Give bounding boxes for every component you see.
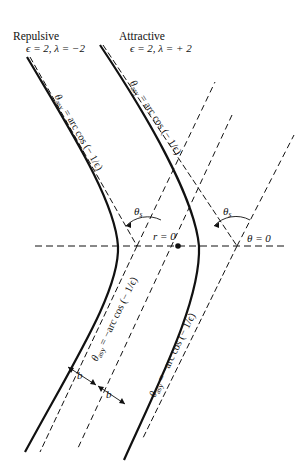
- attractive-title: Attractive: [119, 30, 165, 42]
- theta-s-label-attractive: θs: [223, 205, 231, 221]
- origin-point: [175, 243, 181, 249]
- attractive-params: ϵ = 2, λ = + 2: [130, 42, 192, 54]
- attractive-lower-asymptote: [142, 246, 237, 440]
- attractive-params-text: ϵ = 2, λ = + 2: [130, 42, 192, 54]
- s-subscript: s: [228, 210, 231, 219]
- theta-s-label-repulsive: θs: [134, 205, 142, 221]
- impact-b-label-left: b: [77, 369, 83, 381]
- attractive-extension-up: [237, 135, 294, 246]
- theta-zero-label: θ = 0: [247, 232, 271, 244]
- s-subscript: s: [139, 210, 142, 219]
- repulsive-title: Repulsive: [13, 30, 59, 42]
- theta-s-arc-attractive: [214, 216, 250, 226]
- repulsive-params-text: ϵ = 2, λ = −2: [26, 42, 85, 54]
- impact-b-label-right: b: [106, 388, 112, 400]
- repulsive-lower-asymptote: [40, 246, 137, 452]
- theta-s-arc-repulsive: [126, 217, 161, 226]
- r-zero-label: r = 0: [153, 230, 176, 242]
- repulsive-params: ϵ = 2, λ = −2: [26, 42, 85, 54]
